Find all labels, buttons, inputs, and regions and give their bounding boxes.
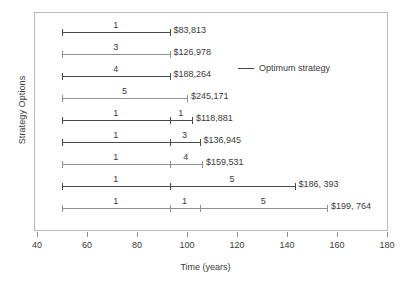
- x-tick-label: 100: [172, 240, 202, 250]
- x-tick-mark: [37, 232, 38, 237]
- bar-line: [62, 208, 327, 209]
- bar-cap: [295, 183, 296, 190]
- segment-label: 4: [104, 64, 128, 74]
- bar-cap: [170, 29, 171, 36]
- bar-cap: [170, 73, 171, 80]
- bar-cap: [62, 183, 63, 190]
- bar-cap: [62, 95, 63, 102]
- segment-label: 5: [113, 86, 137, 96]
- segment-label: 1: [173, 196, 197, 206]
- legend: Optimum strategy: [238, 63, 330, 73]
- bar-cap: [62, 161, 63, 168]
- bar-cap: [170, 139, 171, 146]
- bar-cap: [200, 139, 201, 146]
- bar-value-label: $245,171: [191, 91, 229, 101]
- bar-cap: [62, 139, 63, 146]
- x-tick-label: 180: [372, 240, 402, 250]
- bar-row: 11$118,881: [0, 109, 411, 131]
- bar-value-label: $126,978: [174, 47, 212, 57]
- x-tick-label: 60: [72, 240, 102, 250]
- segment-label: 1: [104, 174, 128, 184]
- segment-label: 1: [169, 108, 193, 118]
- segment-label: 1: [104, 196, 128, 206]
- x-tick-label: 120: [222, 240, 252, 250]
- x-tick-mark: [87, 232, 88, 237]
- bar-cap: [170, 51, 171, 58]
- bar-row: 1$83,813: [0, 21, 411, 43]
- bar-line: [62, 186, 295, 187]
- x-tick-mark: [337, 232, 338, 237]
- bar-line: [62, 142, 200, 143]
- segment-label: 3: [173, 130, 197, 140]
- segment-label: 5: [220, 174, 244, 184]
- bar-value-label: $159,531: [206, 157, 244, 167]
- bar-row: 13$136,945: [0, 131, 411, 153]
- segment-label: 1: [104, 130, 128, 140]
- bar-cap: [327, 205, 328, 212]
- bar-cap: [187, 95, 188, 102]
- bar-value-label: $136,945: [204, 135, 242, 145]
- bar-cap: [62, 205, 63, 212]
- legend-line-icon: [238, 68, 254, 69]
- bar-cap: [62, 29, 63, 36]
- bar-cap: [170, 183, 171, 190]
- bar-value-label: $188,264: [174, 69, 212, 79]
- segment-label: 1: [104, 108, 128, 118]
- bar-value-label: $186, 393: [299, 179, 339, 189]
- x-tick-label: 40: [22, 240, 52, 250]
- x-tick-mark: [237, 232, 238, 237]
- bar-value-label: $199, 764: [331, 201, 371, 211]
- bar-cap: [170, 117, 171, 124]
- segment-label: 3: [104, 42, 128, 52]
- bar-line: [62, 54, 170, 55]
- x-tick-mark: [187, 232, 188, 237]
- segment-label: 5: [251, 196, 275, 206]
- x-tick-label: 80: [122, 240, 152, 250]
- x-tick-mark: [137, 232, 138, 237]
- bar-line: [62, 164, 202, 165]
- bar-cap: [170, 161, 171, 168]
- bar-row: 14$159,531: [0, 153, 411, 175]
- bar-row: 3$126,978: [0, 43, 411, 65]
- bar-cap: [170, 205, 171, 212]
- segment-label: 1: [104, 20, 128, 30]
- segment-label: 1: [104, 152, 128, 162]
- x-tick-mark: [287, 232, 288, 237]
- bar-value-label: $83,813: [174, 25, 207, 35]
- bar-cap: [62, 73, 63, 80]
- x-tick-label: 140: [272, 240, 302, 250]
- legend-label: Optimum strategy: [259, 63, 330, 73]
- bar-cap: [62, 51, 63, 58]
- bar-line: [62, 98, 187, 99]
- x-axis-title: Time (years): [0, 262, 411, 272]
- bar-row: 15$186, 393: [0, 175, 411, 197]
- bar-line: [62, 32, 170, 33]
- bar-row: 5$245,171: [0, 87, 411, 109]
- bar-line: [62, 76, 170, 77]
- x-tick-mark: [387, 232, 388, 237]
- segment-label: 4: [174, 152, 198, 162]
- bar-cap: [200, 205, 201, 212]
- bar-cap: [202, 161, 203, 168]
- bar-row: 4$188,264: [0, 65, 411, 87]
- bar-line: [62, 120, 192, 121]
- bar-row: 115$199, 764: [0, 197, 411, 219]
- bar-value-label: $118,881: [196, 113, 233, 123]
- bar-cap: [62, 117, 63, 124]
- bar-cap: [192, 117, 193, 124]
- strategy-options-chart: Strategy Options Time (years) 4060801001…: [0, 0, 411, 284]
- x-tick-label: 160: [322, 240, 352, 250]
